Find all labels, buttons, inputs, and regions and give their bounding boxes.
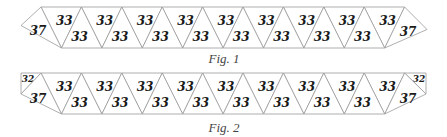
triangle-label: 33 (298, 14, 315, 28)
end-label-left: 37 (30, 92, 47, 106)
triangle-label: 33 (258, 80, 275, 94)
triangle-label: 33 (258, 14, 275, 28)
end-label-right: 37 (400, 92, 417, 106)
end-label-left: 37 (30, 24, 47, 38)
triangle-label: 33 (273, 30, 290, 44)
triangle-label: 33 (339, 80, 356, 94)
end-label-right: 37 (400, 25, 417, 39)
triangle-label: 33 (314, 96, 331, 110)
figure-1: 33333333333333333333333333333333333737 (21, 7, 427, 48)
triangle-label: 33 (354, 96, 371, 110)
triangle-label: 33 (339, 14, 356, 28)
triangle-label: 33 (298, 80, 315, 94)
triangle-label: 33 (56, 14, 73, 28)
triangle-label: 33 (56, 80, 73, 94)
triangle-label: 33 (137, 14, 154, 28)
figure-2-caption: Fig. 2 (207, 120, 240, 135)
triangle-label: 33 (177, 80, 194, 94)
triangle-label: 33 (218, 14, 235, 28)
triangle-label: 33 (379, 80, 396, 94)
triangle-label: 33 (354, 30, 371, 44)
triangle-label: 33 (192, 30, 209, 44)
triangle-label: 33 (112, 96, 129, 110)
triangle-label: 33 (177, 14, 194, 28)
triangle-label: 33 (218, 80, 235, 94)
figure-1-caption: Fig. 1 (207, 51, 239, 66)
triangle-label: 33 (379, 14, 396, 28)
triangle-strip-diagrams: 33333333333333333333333333333333333737 F… (0, 0, 447, 137)
triangle-label: 33 (71, 30, 88, 44)
triangle-label: 33 (96, 14, 113, 28)
triangle-label: 33 (273, 96, 290, 110)
triangle-label: 33 (314, 30, 331, 44)
triangle-label: 33 (192, 96, 209, 110)
triangle-label: 33 (233, 30, 250, 44)
triangle-label: 33 (112, 30, 129, 44)
triangle-label: 33 (233, 96, 250, 110)
triangle-label: 33 (71, 96, 88, 110)
triangle-label: 33 (96, 80, 113, 94)
triangle-label: 33 (137, 80, 154, 94)
figure-2: 3333333333333333333333333333333333323732… (21, 73, 426, 114)
triangle-label: 33 (152, 30, 169, 44)
triangle-label: 33 (152, 96, 169, 110)
